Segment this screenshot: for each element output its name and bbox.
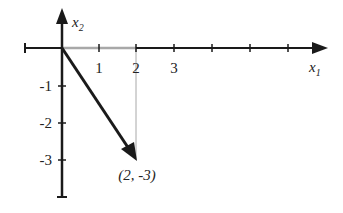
x-tick-label-1: 1 [95, 60, 103, 76]
y-tick-label-neg2: -2 [40, 115, 53, 131]
x-axis-arrow-icon [312, 42, 328, 54]
x-tick-label-3: 3 [170, 60, 178, 76]
vector-arrowhead-icon [121, 142, 137, 161]
y-axis [56, 8, 68, 197]
y-axis-label: x2 [71, 14, 84, 33]
x-tick-label-2: 2 [132, 60, 140, 76]
y-tick-label-neg3: -3 [40, 152, 53, 168]
y-tick-label-neg1: -1 [40, 78, 53, 94]
vector-endpoint-label: (2, -3) [118, 167, 156, 184]
y-axis-arrow-icon [56, 8, 68, 24]
x-axis-label: x1 [308, 59, 321, 78]
vector-diagram: x2 x1 1 2 3 -1 -2 -3 (2, -3) [0, 0, 343, 213]
